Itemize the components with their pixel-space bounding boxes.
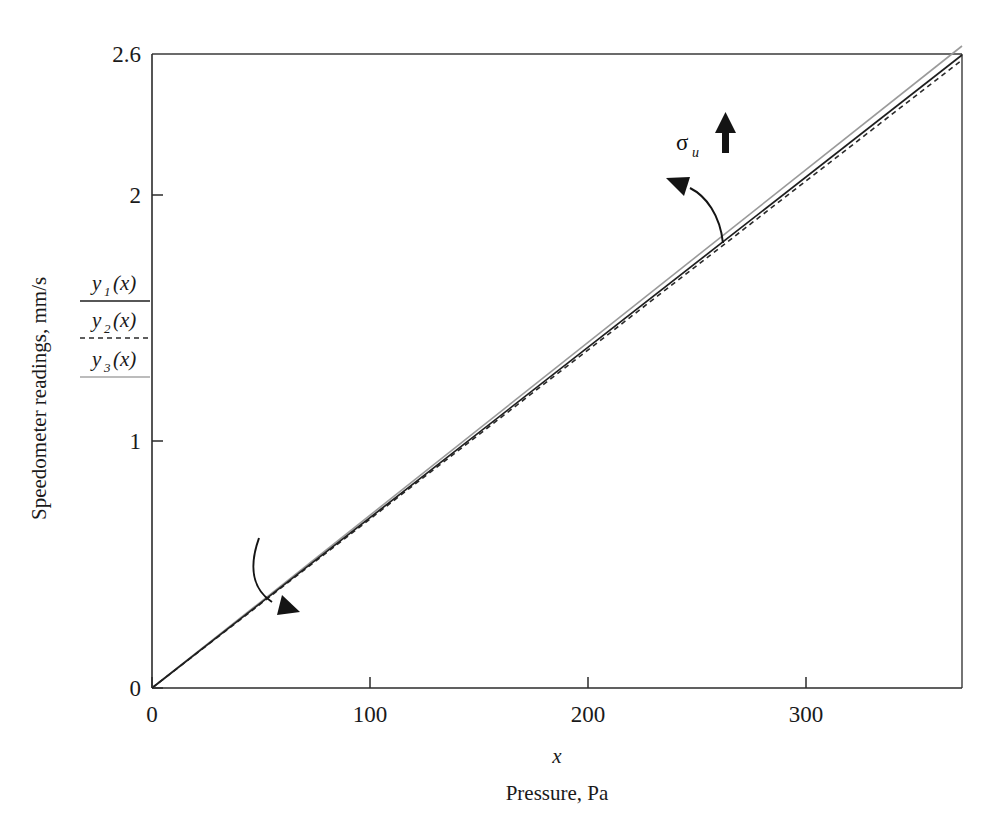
legend-label-y1-base: y (90, 271, 102, 295)
chart-figure: 2.6 2 1 0 0 100 200 300 Speedometer read… (0, 0, 1002, 827)
legend-entry-y1: y 1 (x) (80, 271, 150, 301)
y-ticklabel-2: 2 (130, 183, 142, 208)
y-ticklabel-top: 2.6 (112, 42, 141, 67)
sigma-symbol: σ (676, 130, 689, 155)
x-ticklabel-100: 100 (353, 702, 388, 727)
chart-svg: 2.6 2 1 0 0 100 200 300 Speedometer read… (0, 0, 1002, 827)
x-axis-variable: x (551, 744, 562, 768)
x-ticklabel-300: 300 (789, 702, 824, 727)
x-ticklabel-200: 200 (571, 702, 606, 727)
sigma-subscript: u (692, 145, 699, 160)
legend-label-y3-base: y (90, 347, 102, 371)
legend: y 1 (x) y 2 (x) y 3 (x) (80, 271, 150, 377)
legend-label-y3-sub: 3 (103, 360, 111, 375)
x-axis-title: Pressure, Pa (506, 781, 609, 805)
legend-entry-y2: y 2 (x) (80, 308, 150, 338)
legend-entry-y3: y 3 (x) (80, 347, 150, 377)
y-ticklabel-1: 1 (130, 429, 142, 454)
legend-label-y3-arg: (x) (113, 347, 136, 371)
y-ticklabel-0: 0 (130, 676, 142, 701)
x-ticklabel-0: 0 (146, 702, 158, 727)
legend-label-y1-arg: (x) (113, 271, 136, 295)
legend-label-y2-arg: (x) (113, 308, 136, 332)
legend-label-y1-sub: 1 (104, 284, 111, 299)
legend-label-y2-base: y (90, 308, 102, 332)
legend-label-y2-sub: 2 (104, 321, 111, 336)
y-axis-title: Speedometer readings, mm/s (27, 277, 51, 520)
